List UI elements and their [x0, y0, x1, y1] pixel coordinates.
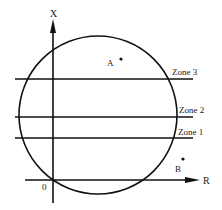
zone-diagram: X R 0 Zone 3 Zone 2 Zone 1 A B [0, 0, 222, 210]
boundary-circle [19, 36, 177, 194]
point-b-label: B [175, 164, 181, 174]
x-axis-arrow-icon [50, 19, 56, 33]
point-a-label: A [107, 58, 114, 68]
zone-1-label: Zone 1 [178, 127, 203, 137]
r-axis-arrow-icon [185, 177, 200, 183]
x-axis-label: X [50, 8, 58, 19]
zone-3-label: Zone 3 [172, 67, 198, 77]
point-a-dot [119, 57, 122, 60]
point-b-dot [181, 157, 184, 160]
origin-label: 0 [42, 182, 47, 192]
zone-2-label: Zone 2 [179, 105, 204, 115]
r-axis-label: R [203, 175, 210, 186]
